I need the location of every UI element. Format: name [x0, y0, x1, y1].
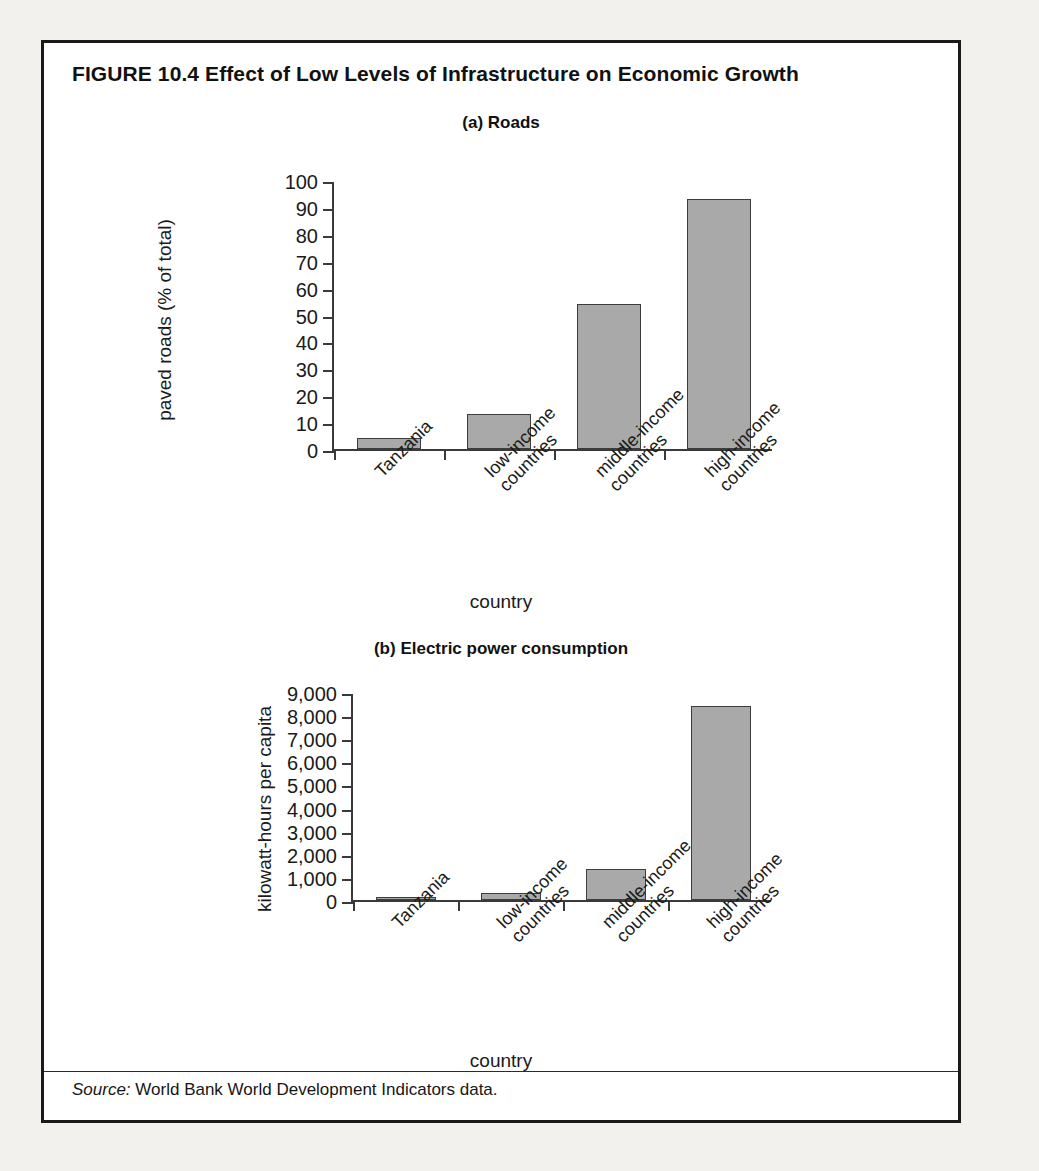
y-tick-label: 1,000	[287, 867, 337, 890]
x-tick-mark	[458, 900, 460, 911]
y-tick-label: 9,000	[287, 683, 337, 706]
source-text: World Bank World Development Indicators …	[131, 1080, 498, 1099]
y-tick-label: 0	[326, 891, 337, 914]
y-tick-mark	[342, 694, 353, 696]
figure-page: FIGURE 10.4 Effect of Low Levels of Infr…	[0, 0, 1039, 1171]
y-tick-mark	[342, 810, 353, 812]
y-tick-label: 5,000	[287, 775, 337, 798]
x-category-label: low-incomecountries	[493, 854, 586, 947]
x-axis-title-electric-power: country	[44, 1050, 958, 1072]
y-tick-mark	[342, 856, 353, 858]
y-tick-mark	[342, 833, 353, 835]
y-tick-label: 4,000	[287, 798, 337, 821]
y-tick-mark	[342, 763, 353, 765]
y-tick-mark	[342, 902, 353, 904]
y-tick-mark	[342, 717, 353, 719]
y-tick-label: 8,000	[287, 706, 337, 729]
source-divider	[44, 1071, 958, 1072]
y-tick-mark	[342, 786, 353, 788]
x-axis-start-tick	[353, 900, 355, 911]
y-axis-title-electric-power: kilowatt-hours per capita	[254, 664, 276, 954]
y-tick-mark	[342, 879, 353, 881]
source-note: Source: World Bank World Development Ind…	[72, 1080, 498, 1100]
y-tick-label: 2,000	[287, 844, 337, 867]
chart-electric-power: 01,0002,0003,0004,0005,0006,0007,0008,00…	[44, 43, 958, 1120]
source-label: Source:	[72, 1080, 131, 1099]
plot-area-electric-power: 01,0002,0003,0004,0005,0006,0007,0008,00…	[351, 694, 771, 902]
figure-container: FIGURE 10.4 Effect of Low Levels of Infr…	[41, 40, 961, 1123]
y-tick-label: 6,000	[287, 752, 337, 775]
y-tick-mark	[342, 740, 353, 742]
y-tick-label: 3,000	[287, 821, 337, 844]
y-tick-label: 7,000	[287, 729, 337, 752]
